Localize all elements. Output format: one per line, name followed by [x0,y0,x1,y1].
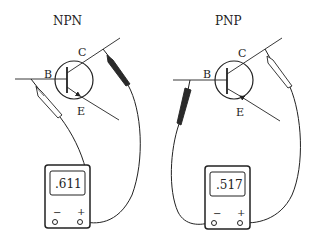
npn-red-probe [31,79,62,118]
npn-neg-terminal-label: − [53,207,61,218]
pnp-red-probe [265,49,292,88]
pnp-emitter-label: E [236,106,244,119]
npn-neg-jack [53,220,58,225]
pnp-black-probe [177,80,191,125]
pnp-neg-jack [212,221,217,226]
pnp-pos-jack [238,221,243,226]
npn-black-probe [103,49,130,86]
pnp-meter-reading: .517 [216,178,243,192]
pnp-pos-terminal-label: + [237,207,245,218]
pnp-base-label: B [203,68,211,81]
npn-diagram: NPN B C E .611 − [15,14,140,228]
npn-multimeter: .611 − + [45,165,90,228]
pnp-title: PNP [215,14,242,28]
pnp-neg-terminal-label: − [213,208,221,219]
npn-pos-terminal-label: + [77,206,85,217]
pnp-multimeter: .517 − + [205,166,250,229]
transistor-test-diagram: NPN B C E .611 − [0,0,313,246]
npn-pos-jack [78,220,83,225]
pnp-diagram: PNP B C E .517 − + [171,14,300,229]
npn-base-label: B [44,68,52,81]
npn-emitter-label: E [77,105,85,118]
pnp-collector-label: C [238,47,246,60]
npn-collector-label: C [78,46,86,59]
npn-meter-reading: .611 [55,177,82,191]
npn-title: NPN [53,14,82,28]
